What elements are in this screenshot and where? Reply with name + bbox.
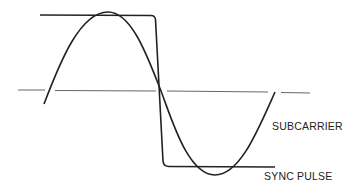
- subcarrier-label: SUBCARRIER: [272, 120, 343, 133]
- diagram-canvas: SUBCARRIER SYNC PULSE: [0, 0, 351, 192]
- waveform-figure: [0, 0, 351, 192]
- reference-axis: [18, 90, 310, 93]
- sync-pulse-label: SYNC PULSE: [264, 170, 333, 183]
